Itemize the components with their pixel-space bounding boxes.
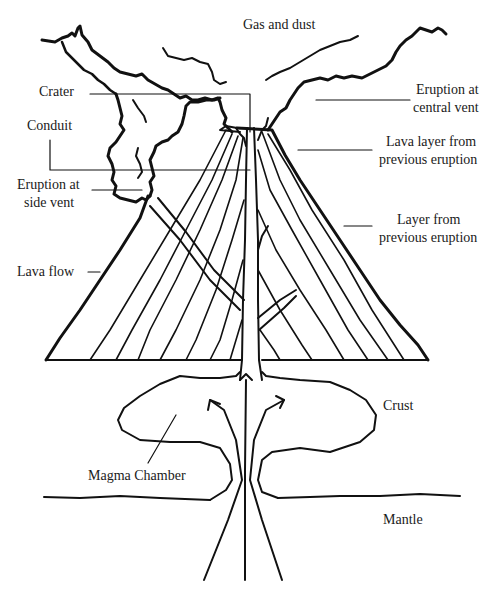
label-lava-layer-1: Lava layer from	[386, 134, 476, 150]
label-layer-prev-2: previous eruption	[379, 230, 477, 246]
label-eruption-central-vent-2: central vent	[413, 100, 479, 116]
label-lava-layer-2: previous eruption	[379, 152, 477, 168]
volcano-diagram: Gas and dust Crater Conduit Eruption at …	[0, 0, 503, 592]
label-magma-chamber: Magma Chamber	[88, 468, 186, 484]
label-lava-flow: Lava flow	[17, 264, 74, 280]
magma-flow-arrows	[204, 374, 284, 580]
label-eruption-side-vent-1: Eruption at	[17, 177, 80, 193]
label-eruption-side-vent-2: side vent	[24, 195, 74, 211]
cone-outline	[46, 126, 428, 360]
crust-mantle-boundary	[44, 494, 460, 500]
leader-lines	[50, 94, 410, 463]
label-eruption-central-vent-1: Eruption at	[416, 82, 479, 98]
label-layer-prev-1: Layer from	[397, 212, 460, 228]
label-crater: Crater	[39, 84, 74, 100]
gas-plume	[42, 26, 232, 202]
label-gas-and-dust: Gas and dust	[243, 17, 315, 33]
side-vent-pipe	[150, 198, 296, 330]
central-conduit	[240, 128, 262, 380]
label-crust: Crust	[383, 398, 413, 414]
label-conduit: Conduit	[27, 118, 72, 134]
label-mantle: Mantle	[383, 512, 423, 528]
